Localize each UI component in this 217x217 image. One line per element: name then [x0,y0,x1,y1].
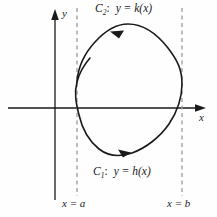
y-axis [51,9,59,200]
y-axis-arrowhead-icon [51,9,59,20]
upper-curve-equation: y = k(x) [116,2,152,14]
x-axis-label: x [199,112,204,123]
upper-curve-separator: : [106,2,109,14]
upper-curve-direction-arrowhead-icon [110,31,124,39]
lower-curve-separator: : [104,165,107,177]
y-axis-label: y [62,8,67,19]
lower-curve-label: C1:y = h(x) [93,166,151,180]
lower-curve-equation: y = h(x) [114,165,151,177]
lower-curve-name: C [93,165,101,177]
lower-curve-direction-arrowhead-icon [118,150,131,158]
upper-curve-label: C2:y = k(x) [95,3,152,17]
upper-curve-name: C [95,2,103,14]
figure-canvas [0,0,217,217]
closed-curve-path [76,24,182,155]
boundary-label-x-equals-a: x = a [62,198,85,209]
math-figure-closed-curve: y x C2:y = k(x) C1:y = h(x) x = a x = b [0,0,217,217]
boundary-label-x-equals-b: x = b [167,198,190,209]
